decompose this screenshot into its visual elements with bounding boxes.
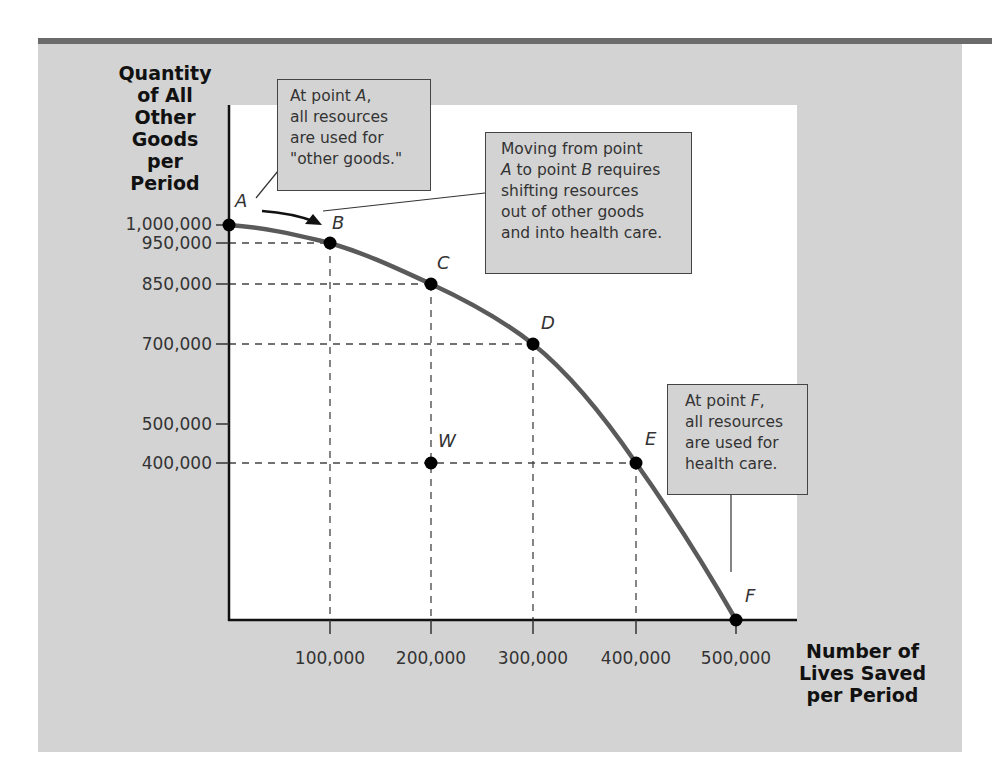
point-label-d: D xyxy=(541,312,555,333)
y-tick-label: 700,000 xyxy=(97,335,212,353)
y-tick-label: 950,000 xyxy=(97,234,212,252)
callout-point-a: At point A, all resources are used for "… xyxy=(277,79,431,191)
point-label-c: C xyxy=(437,252,450,273)
x-tick-label: 500,000 xyxy=(686,648,786,668)
data-points xyxy=(223,219,743,627)
x-tick-label: 200,000 xyxy=(381,648,481,668)
point-label-b: B xyxy=(332,212,344,233)
point-d xyxy=(527,338,540,351)
ppf-curve xyxy=(229,225,736,620)
x-axis-title: Number of Lives Saved per Period xyxy=(790,640,935,706)
x-ticks xyxy=(330,620,736,634)
point-label-w: W xyxy=(438,430,456,451)
y-axis-title: Quantity of All Other Goods per Period xyxy=(100,62,230,194)
x-tick-label: 300,000 xyxy=(483,648,583,668)
point-f xyxy=(730,614,743,627)
point-label-e: E xyxy=(645,428,656,449)
guide-lines xyxy=(229,243,636,620)
arrow-a-to-b xyxy=(262,211,316,222)
point-c xyxy=(425,278,438,291)
point-b xyxy=(324,237,337,250)
y-tick-label: 500,000 xyxy=(97,415,212,433)
point-a xyxy=(223,219,236,232)
y-ticks xyxy=(216,225,229,463)
y-tick-label: 850,000 xyxy=(97,275,212,293)
point-w xyxy=(425,457,438,470)
y-tick-label: 400,000 xyxy=(97,454,212,472)
y-tick-label: 1,000,000 xyxy=(97,215,212,233)
x-tick-label: 400,000 xyxy=(586,648,686,668)
point-label-a: A xyxy=(235,190,247,211)
callout-a-to-b: Moving from point A to point B requires … xyxy=(485,132,692,274)
callout-point-f: At point F, all resources are used for h… xyxy=(667,384,808,495)
point-e xyxy=(630,457,643,470)
point-label-f: F xyxy=(745,585,755,606)
x-tick-label: 100,000 xyxy=(280,648,380,668)
